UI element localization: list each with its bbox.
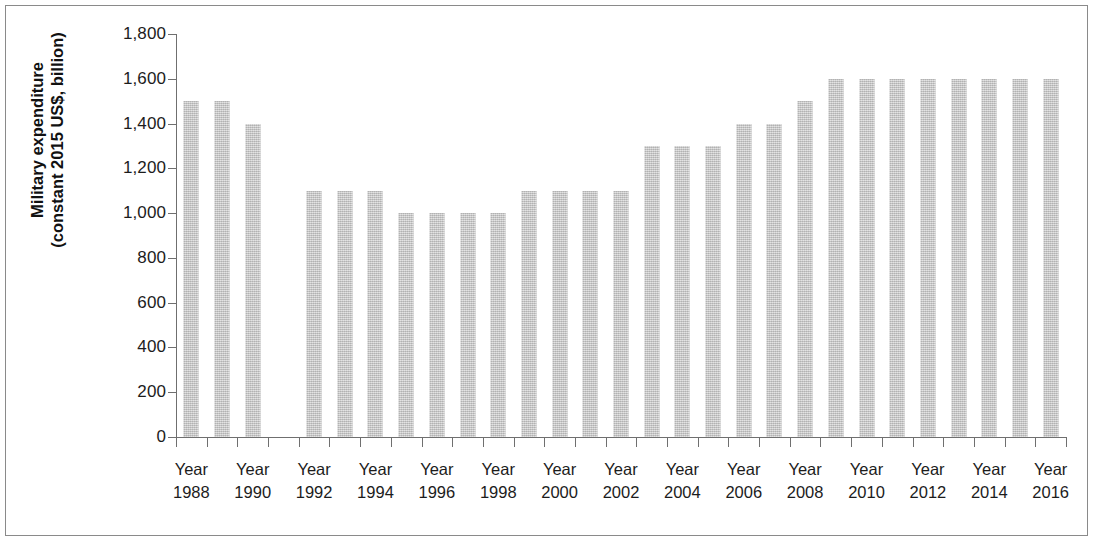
x-axis-tick [422,438,423,447]
bar[interactable] [337,191,352,437]
x-axis-tick [360,438,361,447]
bar-slot [1035,34,1066,437]
x-axis-tick [759,438,760,447]
x-axis-tick [237,438,238,447]
bar[interactable] [706,146,721,437]
bar-slot [913,34,944,437]
x-axis-tick [452,438,453,447]
bar-slot [268,34,299,437]
bar[interactable] [245,124,260,437]
bar-slot [728,34,759,437]
x-axis-tick [483,438,484,447]
x-axis-tick [1035,438,1036,447]
bar[interactable] [736,124,751,437]
x-axis-tick [1005,438,1006,447]
bar-slot [360,34,391,437]
y-axis-tick-label: 1,200 [46,158,166,178]
y-axis-tick [168,213,176,214]
bar-slot [974,34,1005,437]
x-axis-tick [514,438,515,447]
bar-slot [882,34,913,437]
bar[interactable] [951,79,966,437]
bar-slot [636,34,667,437]
bar-slot [606,34,637,437]
bar-slot [299,34,330,437]
bar-slot [207,34,238,437]
x-axis-tick [606,438,607,447]
bar-slot [422,34,453,437]
bar[interactable] [920,79,935,437]
y-axis-tick [168,347,176,348]
y-axis-tick-label: 400 [46,337,166,357]
bar-slot [391,34,422,437]
y-axis-tick [168,79,176,80]
y-axis-tick [168,303,176,304]
bar[interactable] [368,191,383,437]
y-axis-tick-label: 0 [46,427,166,447]
bar[interactable] [613,191,628,437]
figure-container: Military expenditure (constant 2015 US$,… [0,0,1093,541]
bar-series [176,34,1066,437]
bar-slot [1005,34,1036,437]
y-axis-tick-label: 1,800 [46,24,166,44]
bar[interactable] [1043,79,1058,437]
bar[interactable] [675,146,690,437]
x-axis-tick-label-prefix: Year [1011,458,1091,481]
bar[interactable] [828,79,843,437]
bar[interactable] [890,79,905,437]
bar[interactable] [798,101,813,437]
x-axis-tick [728,438,729,447]
bar-slot [667,34,698,437]
bar[interactable] [491,213,506,437]
bar[interactable] [521,191,536,437]
bar[interactable] [982,79,997,437]
x-axis-tick [268,438,269,447]
x-axis-tick [176,438,177,447]
x-axis-line [176,437,1067,438]
x-axis-tick [974,438,975,447]
bar[interactable] [583,191,598,437]
x-axis-tick [391,438,392,447]
x-axis-tick [790,438,791,447]
bar[interactable] [399,213,414,437]
y-axis-tick-label: 800 [46,248,166,268]
bar[interactable] [184,101,199,437]
bar[interactable] [1012,79,1027,437]
bar-slot [452,34,483,437]
bar[interactable] [859,79,874,437]
bar[interactable] [767,124,782,437]
x-axis-tick [575,438,576,447]
bar[interactable] [644,146,659,437]
x-axis-tick-label-year: 2016 [1011,481,1091,504]
bar[interactable] [307,191,322,437]
bar-slot [943,34,974,437]
bar-slot [483,34,514,437]
bar-slot [790,34,821,437]
x-axis-tick [299,438,300,447]
y-axis-tick [168,392,176,393]
x-axis-tick [329,438,330,447]
y-axis-tick-label: 1,000 [46,203,166,223]
x-axis-tick [207,438,208,447]
bar[interactable] [552,191,567,437]
bar-slot [544,34,575,437]
y-axis-tick-label: 1,600 [46,69,166,89]
x-axis-tick-label: Year2016 [1011,458,1091,504]
bar[interactable] [429,213,444,437]
x-axis-tick [667,438,668,447]
y-axis-tick-labels: 02004006008001,0001,2001,4001,6001,800 [36,0,166,541]
y-axis-tick [168,258,176,259]
bar[interactable] [215,101,230,437]
y-axis-tick [168,34,176,35]
x-axis-tick [544,438,545,447]
bar-slot [759,34,790,437]
bar-slot [820,34,851,437]
x-axis-tick [636,438,637,447]
x-axis-tick [698,438,699,447]
bar-slot [176,34,207,437]
y-axis-tick-label: 600 [46,293,166,313]
y-axis-tick [168,437,176,438]
bar[interactable] [460,213,475,437]
x-axis-tick [882,438,883,447]
x-axis-tick [913,438,914,447]
